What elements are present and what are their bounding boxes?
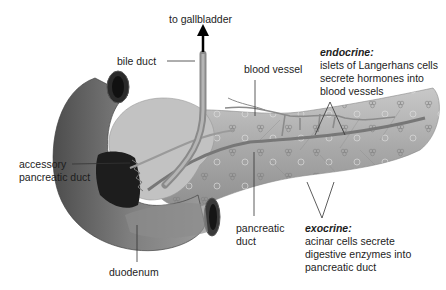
accessory-duct-line: pancreatic duct <box>19 171 90 184</box>
endocrine-title: endocrine: <box>320 46 438 59</box>
endocrine-line: islets of Langerhans cells <box>320 59 438 72</box>
exocrine-line: pancreatic duct <box>305 261 411 274</box>
pancreatic-duct-line: pancreatic <box>236 222 284 235</box>
pancreatic-duct-line: duct <box>236 235 284 248</box>
accessory-duct-line: accessory <box>19 158 90 171</box>
label-to-gallbladder: to gallbladder <box>169 13 232 26</box>
arrow-up-icon <box>197 24 209 52</box>
exocrine-line: digestive enzymes into <box>305 248 411 261</box>
label-duodenum: duodenum <box>109 266 159 279</box>
endocrine-line: secrete hormones into <box>320 72 438 85</box>
exocrine-line: acinar cells secrete <box>305 235 411 248</box>
label-exocrine: exocrine: acinar cells secrete digestive… <box>305 222 411 274</box>
exocrine-title: exocrine: <box>305 222 411 235</box>
label-pancreatic-duct: pancreatic duct <box>236 222 284 248</box>
label-bile-duct: bile duct <box>117 55 156 68</box>
label-accessory-pancreatic-duct: accessory pancreatic duct <box>19 158 90 184</box>
label-blood-vessel: blood vessel <box>244 63 302 76</box>
endocrine-line: blood vessels <box>320 85 438 98</box>
label-endocrine: endocrine: islets of Langerhans cells se… <box>320 46 438 98</box>
